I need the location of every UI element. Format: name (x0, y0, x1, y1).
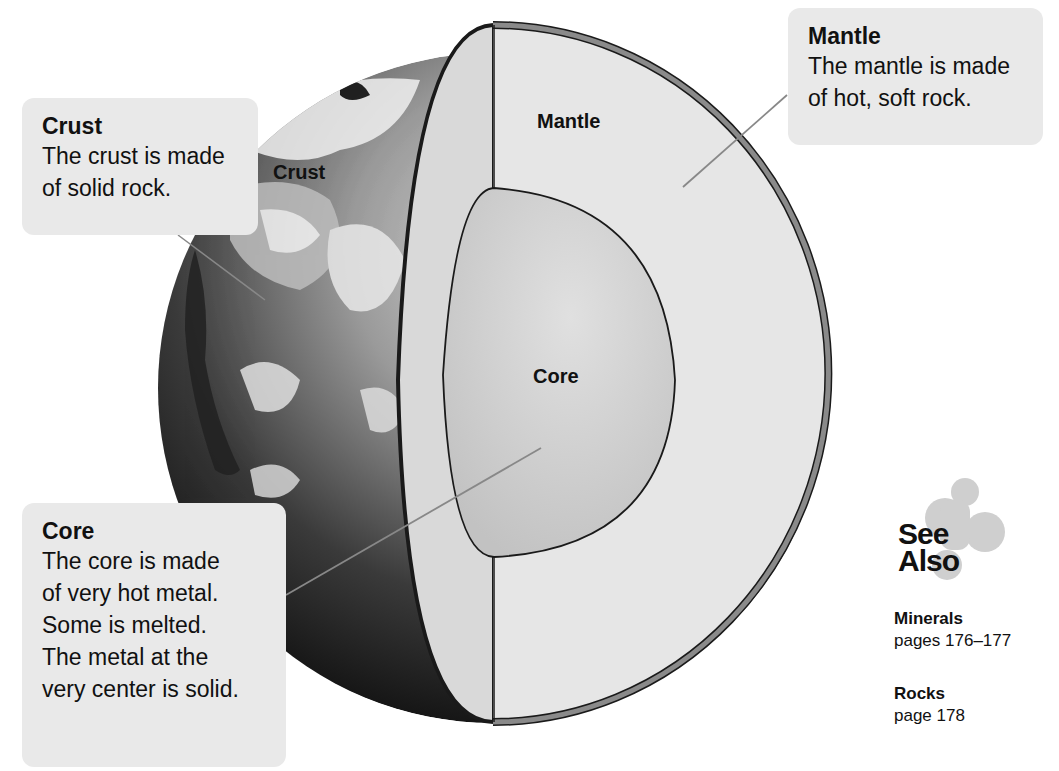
core-callout-line: Some is melted. (42, 609, 286, 641)
label-crust: Crust (273, 160, 325, 184)
mantle-callout-line: of hot, soft rock. (808, 82, 1043, 114)
crust-callout-title: Crust (42, 112, 258, 140)
ref-name: Minerals (894, 608, 1011, 630)
crust-callout-line: of solid rock. (42, 172, 258, 204)
see-also-line2: Also (898, 547, 959, 574)
mantle-callout-line: The mantle is made (808, 50, 1043, 82)
core-callout: Core The core is made of very hot metal.… (22, 503, 286, 767)
see-also-line1: See (898, 520, 959, 547)
core-callout-title: Core (42, 517, 286, 545)
core-callout-line: of very hot metal. (42, 577, 286, 609)
mantle-callout-title: Mantle (808, 22, 1043, 50)
label-mantle: Mantle (537, 109, 600, 133)
crust-callout-line: The crust is made (42, 140, 258, 172)
crust-callout: Crust The crust is made of solid rock. (22, 98, 258, 235)
core-callout-line: The metal at the (42, 641, 286, 673)
core-callout-line: very center is solid. (42, 673, 286, 705)
core-callout-line: The core is made (42, 545, 286, 577)
ref-name: Rocks (894, 683, 965, 705)
see-also-ref-rocks[interactable]: Rocks page 178 (894, 683, 965, 727)
see-also-ref-minerals[interactable]: Minerals pages 176–177 (894, 608, 1011, 652)
mantle-callout: Mantle The mantle is made of hot, soft r… (788, 8, 1043, 145)
ref-pages: pages 176–177 (894, 630, 1011, 652)
see-also-heading: See Also (898, 520, 959, 574)
ref-pages: page 178 (894, 705, 965, 727)
label-core: Core (533, 364, 579, 388)
